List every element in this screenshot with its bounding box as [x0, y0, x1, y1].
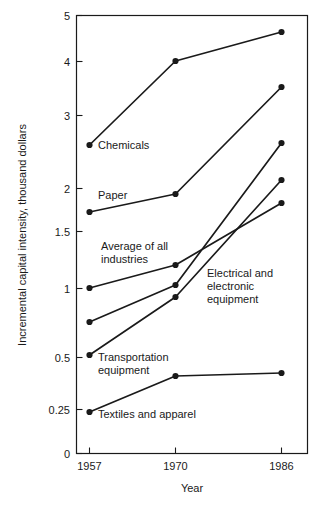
- series-annotation-paper: Paper: [98, 189, 128, 201]
- series-chemicals: [86, 29, 284, 148]
- series-annotation-average-line2: industries: [101, 253, 149, 265]
- y-tick-label-4: 4: [64, 56, 70, 68]
- series-line-chemicals: [90, 32, 282, 145]
- y-tick-label-5: 5: [64, 10, 70, 22]
- series-annotation-transportation-line2: equipment: [98, 364, 149, 376]
- series-annotation-transportation-line1: Transportation: [98, 351, 169, 363]
- data-point-transportation-1970: [172, 294, 178, 300]
- y-tick-label-0: 0: [64, 448, 70, 460]
- x-axis-title: Year: [181, 482, 204, 494]
- data-point-transportation-1957: [86, 352, 92, 358]
- y-axis-title: Incremental capital intensity, thousand …: [16, 124, 28, 346]
- series-annotation-average-line1: Average of all: [101, 240, 168, 252]
- y-tick-label-0-25: 0.25: [49, 404, 70, 416]
- x-axis-ticks: [90, 448, 282, 454]
- data-point-textiles-1970: [172, 373, 178, 379]
- y-tick-label-2: 2: [64, 183, 70, 195]
- data-point-paper-1970: [172, 191, 178, 197]
- y-axis-tick-labels: 5 4 3 2 1.5 1 0.5 0.25 0: [49, 10, 70, 460]
- series-annotation-electrical-line2: electronic: [207, 280, 255, 292]
- data-point-paper-1957: [86, 209, 92, 215]
- series-annotation-textiles: Textiles and apparel: [98, 408, 196, 420]
- plot-frame: [77, 16, 308, 454]
- data-point-electrical-1957: [86, 319, 92, 325]
- data-point-chemicals-1957: [86, 142, 92, 148]
- data-point-average-1986: [278, 200, 284, 206]
- x-tick-label-1986: 1986: [269, 460, 293, 472]
- series-annotation-electrical-line3: equipment: [207, 293, 258, 305]
- series-line-textiles-and-apparel: [90, 373, 282, 412]
- y-tick-label-1-5: 1.5: [55, 226, 70, 238]
- data-point-electrical-1970: [172, 282, 178, 288]
- data-point-average-1970: [172, 262, 178, 268]
- x-tick-label-1970: 1970: [163, 460, 187, 472]
- series-annotation-electrical-and-electronic-equipment: Electrical and electronic equipment: [207, 267, 273, 305]
- series-annotation-electrical-line1: Electrical and: [207, 267, 273, 279]
- x-axis-tick-labels: 1957 1970 1986: [77, 460, 293, 472]
- series-annotation-chemicals: Chemicals: [98, 139, 150, 151]
- data-point-chemicals-1986: [278, 29, 284, 35]
- data-point-textiles-1986: [278, 370, 284, 376]
- data-point-paper-1986: [278, 84, 284, 90]
- x-tick-label-1957: 1957: [77, 460, 101, 472]
- data-point-electrical-1986: [278, 140, 284, 146]
- data-point-transportation-1986: [278, 177, 284, 183]
- series-annotation-average-of-all-industries: Average of all industries: [101, 240, 168, 265]
- y-tick-label-1: 1: [64, 283, 70, 295]
- series-annotation-transportation-equipment: Transportation equipment: [98, 351, 169, 376]
- y-tick-label-3: 3: [64, 110, 70, 122]
- incremental-capital-intensity-line-chart: 5 4 3 2 1.5 1 0.5 0.25 0 1957 1970 1986 …: [0, 0, 318, 506]
- y-axis-ticks: [77, 16, 83, 454]
- y-tick-label-0-5: 0.5: [55, 352, 70, 364]
- data-point-chemicals-1970: [172, 58, 178, 64]
- data-point-textiles-1957: [86, 409, 92, 415]
- chart-figure: 5 4 3 2 1.5 1 0.5 0.25 0 1957 1970 1986 …: [0, 0, 318, 506]
- data-point-average-1957: [86, 285, 92, 291]
